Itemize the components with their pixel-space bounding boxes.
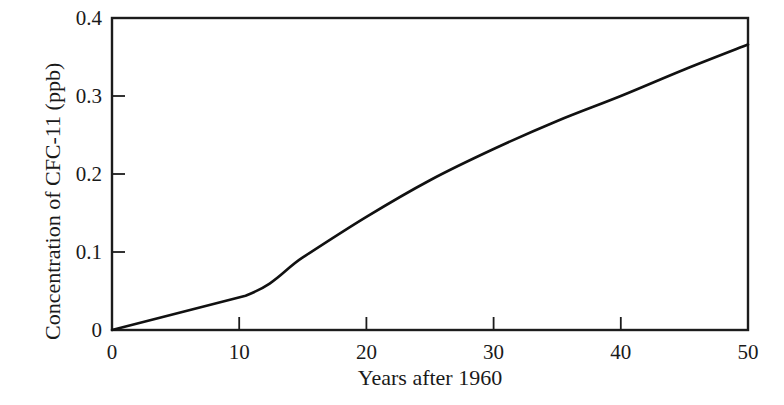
x-tick-label: 40 [610, 342, 631, 363]
y-axis-tick-marks [112, 96, 125, 252]
x-tick-label: 10 [229, 342, 250, 363]
chart-canvas [0, 0, 784, 405]
data-series-line [112, 45, 748, 330]
x-tick-label: 30 [483, 342, 504, 363]
x-axis-title: Years after 1960 [358, 365, 502, 391]
plot-frame [112, 18, 748, 330]
x-tick-label: 20 [356, 342, 377, 363]
y-axis-title: Concentration of CFC-11 (ppb) [40, 63, 66, 340]
x-tick-label: 0 [107, 342, 118, 363]
chart-figure: 00.10.20.30.4 01020304050 Years after 19… [0, 0, 784, 405]
x-tick-label: 50 [738, 342, 759, 363]
y-tick-label: 0.4 [40, 8, 102, 29]
x-axis-tick-marks [239, 317, 621, 330]
